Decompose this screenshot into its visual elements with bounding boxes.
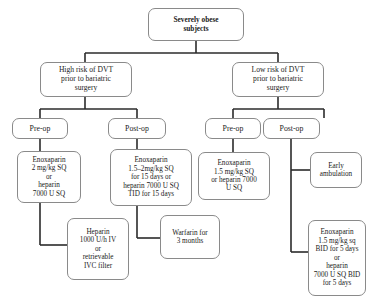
node-low-postop-treatment-secondary: Enoxaparin 1.5 mg/kg sq BID for 5 days o… <box>308 220 366 296</box>
node-high-postop-treatment-secondary-label: Warfarin for 3 months <box>164 229 216 246</box>
node-high-risk-label: High risk of DVT prior to bariatric surg… <box>44 66 128 93</box>
node-low-risk: Low risk of DVT prior to bariatric surge… <box>232 62 324 97</box>
node-root: Severely obese subjects <box>148 8 244 41</box>
node-low-postop-treatment-label: Early ambulation <box>314 162 358 179</box>
node-low-postop-label: Post-op <box>267 124 316 133</box>
node-low-preop-label: Pre-op <box>209 124 257 133</box>
node-high-preop-label: Pre-op <box>16 124 64 133</box>
node-high-preop-treatment: Enoxaparin 2 mg/kg SQ or heparin 7000 U … <box>17 151 81 203</box>
node-high-postop-treatment-secondary: Warfarin for 3 months <box>160 215 220 259</box>
node-low-postop-treatment-secondary-label: Enoxaparin 1.5 mg/kg sq BID for 5 days o… <box>312 228 362 287</box>
node-low-postop-treatment: Early ambulation <box>310 152 362 188</box>
node-high-risk: High risk of DVT prior to bariatric surg… <box>40 62 132 97</box>
node-high-postop: Post-op <box>108 118 166 139</box>
node-high-postop-label: Post-op <box>112 124 162 133</box>
node-low-risk-label: Low risk of DVT prior to bariatric surge… <box>236 66 320 93</box>
node-low-preop-treatment: Enoxaparin 1.5 mg/kg SQ or heparin 7000 … <box>198 152 270 200</box>
node-low-preop: Pre-op <box>205 118 261 139</box>
node-low-preop-treatment-label: Enoxaparin 1.5 mg/kg SQ or heparin 7000 … <box>202 159 266 193</box>
node-high-preop-treatment-label: Enoxaparin 2 mg/kg SQ or heparin 7000 U … <box>21 156 77 198</box>
node-root-label: Severely obese subjects <box>152 16 240 33</box>
node-high-preop: Pre-op <box>12 118 68 139</box>
node-high-preop-treatment-secondary-label: Heparin 1000 U/h IV or retrievable IVC f… <box>71 228 125 270</box>
node-high-postop-treatment: Enoxaparin 1.5–2mg/kg SQ for 15 days or … <box>110 149 192 206</box>
node-low-postop: Post-op <box>263 118 320 139</box>
node-high-preop-treatment-secondary: Heparin 1000 U/h IV or retrievable IVC f… <box>67 218 129 280</box>
node-high-postop-treatment-label: Enoxaparin 1.5–2mg/kg SQ for 15 days or … <box>114 156 188 198</box>
